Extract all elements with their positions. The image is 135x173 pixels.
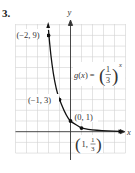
- label-point-neg1-3: (−1, 3): [28, 95, 51, 105]
- svg-text:x: x: [118, 61, 122, 68]
- svg-text:(: (: [99, 65, 105, 87]
- svg-text:): ): [112, 65, 118, 87]
- function-label: g(x) = ( 1 3 ) x: [73, 61, 125, 87]
- svg-text:3: 3: [91, 145, 95, 153]
- y-axis-arrow-icon: [68, 20, 72, 26]
- svg-text:3: 3: [106, 76, 110, 85]
- x-axis-label: x: [126, 127, 131, 137]
- svg-text:): ): [96, 135, 102, 154]
- svg-text:1: 1: [91, 136, 95, 144]
- graph: x y (−2, 9) (−1, 3) (0, 1) ( 1, 1 3: [0, 0, 135, 173]
- label-point-0-1: (0, 1): [75, 112, 94, 122]
- svg-text:1,: 1,: [82, 139, 88, 149]
- point-0-1: [69, 119, 73, 123]
- axes: [16, 20, 126, 160]
- svg-text:(: (: [75, 135, 81, 154]
- svg-text:g(x) =: g(x) =: [74, 70, 95, 80]
- y-axis-label: y: [67, 7, 72, 17]
- label-point-1-third: ( 1, 1 3 ): [75, 135, 103, 154]
- point-1-third: [80, 126, 84, 130]
- point-neg2-9: [47, 34, 51, 38]
- figure: 3.: [0, 0, 135, 173]
- svg-text:1: 1: [106, 65, 110, 74]
- label-point-neg2-9: (−2, 9): [17, 30, 40, 40]
